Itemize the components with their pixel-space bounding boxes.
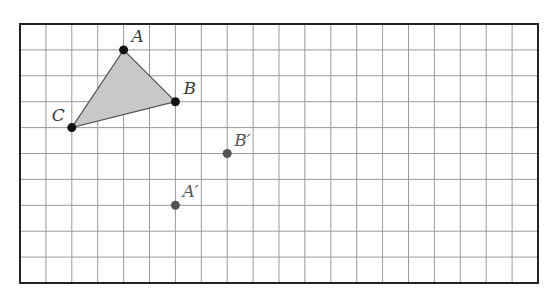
label-a: A <box>130 26 144 46</box>
grid-diagram: ABCB′A′ <box>0 0 549 307</box>
grid-lines <box>20 24 538 283</box>
point-a <box>119 45 128 54</box>
point-a-prime <box>171 201 180 210</box>
point-b <box>171 97 180 106</box>
label-a-prime: A′ <box>180 181 198 201</box>
point-b-prime <box>223 149 232 158</box>
point-c <box>67 123 76 132</box>
label-b-prime: B′ <box>233 130 250 150</box>
label-b: B <box>182 78 196 98</box>
label-c: C <box>52 105 65 125</box>
